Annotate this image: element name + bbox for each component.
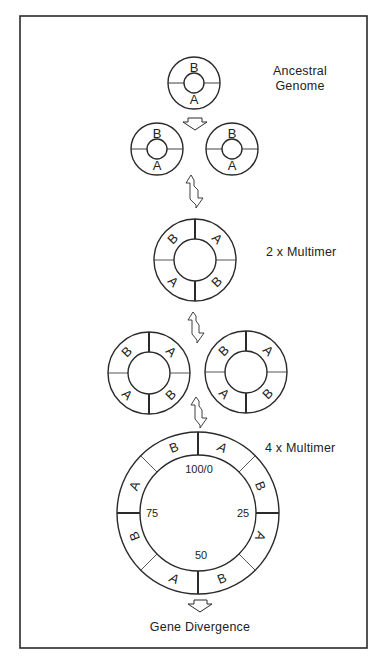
segment-label-b: B [126, 529, 143, 543]
multimer-2x-circle: B A A B [154, 219, 236, 301]
segment-label-b: B [259, 385, 276, 402]
segment-label-a: A [260, 342, 277, 359]
segment-label-b: B [208, 273, 225, 290]
map-position-top: 100/0 [185, 463, 213, 475]
segment-label-b: B [228, 126, 237, 141]
duplicated-genome-left: B A [131, 123, 183, 175]
gene-duplication-diagram: B A B A B A B A A B [0, 0, 382, 661]
recombination-arrow-icon [191, 397, 207, 428]
multimer-2x-left-circle: B A A B [108, 332, 190, 414]
segment-label-a: A [163, 343, 180, 360]
multimer-2x-right-circle: B A A B [205, 331, 287, 413]
segment-label-a: A [119, 386, 136, 403]
map-position-bottom: 50 [195, 549, 207, 561]
segment-label-b: B [118, 343, 135, 360]
segment-label-a: A [214, 439, 229, 457]
segment-label-b: B [190, 60, 199, 75]
segment-label-a: A [126, 479, 143, 493]
map-position-right: 25 [237, 507, 249, 519]
segment-label-a: A [228, 158, 237, 173]
segment-label-a: A [153, 158, 162, 173]
multimer-4x-label: 4 x Multimer [265, 441, 335, 456]
ancestral-genome-label: Ancestral Genome [265, 64, 335, 94]
segment-label-b: B [153, 126, 162, 141]
segment-label-b: B [215, 570, 229, 587]
recombination-arrow-icon [186, 175, 203, 208]
multimer-2x-label: 2 x Multimer [266, 245, 336, 260]
gene-divergence-label: Gene Divergence [148, 620, 252, 635]
segment-label-a: A [165, 273, 182, 290]
recombination-arrow-icon [188, 312, 204, 343]
duplicated-genome-right: B A [206, 123, 258, 175]
segment-label-b: B [167, 439, 181, 456]
map-position-left: 75 [146, 507, 158, 519]
segment-label-a: A [252, 529, 269, 543]
ancestral-label-line1: Ancestral [265, 64, 335, 79]
segment-label-b: B [215, 342, 232, 359]
ancestral-genome-circle: B A [168, 57, 220, 109]
down-arrow-icon [183, 118, 207, 130]
segment-label-a: A [166, 570, 181, 588]
segment-label-b: B [252, 479, 269, 493]
segment-label-a: A [216, 385, 233, 402]
segment-label-b: B [162, 386, 179, 403]
segment-label-a: A [190, 92, 199, 107]
segment-label-b: B [164, 230, 181, 247]
segment-label-a: A [209, 230, 226, 247]
multimer-4x-circle: B A B A B A B A 100/0 25 50 75 [117, 432, 279, 594]
down-arrow-icon [188, 600, 212, 612]
ancestral-label-line2: Genome [265, 79, 335, 94]
